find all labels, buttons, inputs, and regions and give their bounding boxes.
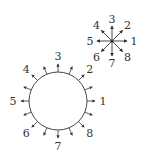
- normal-arrow: [44, 128, 47, 135]
- normal-arrow: [32, 122, 38, 128]
- star-label: 7: [109, 57, 116, 70]
- circle-label: 6: [23, 127, 30, 140]
- circle-label: 8: [86, 127, 93, 140]
- normal-arrow: [69, 128, 72, 135]
- star-arrow: [101, 30, 112, 41]
- normal-arrow: [69, 67, 72, 74]
- circle-outline: [29, 72, 87, 130]
- star-center-dot: [110, 39, 113, 42]
- circle-label: 2: [86, 63, 93, 76]
- star-arrow: [112, 41, 123, 52]
- circle-label: 3: [55, 50, 62, 63]
- normal-arrow: [32, 75, 38, 81]
- normal-arrow: [24, 87, 31, 90]
- circle-label: 7: [55, 140, 62, 153]
- star-label: 1: [131, 35, 138, 48]
- normal-arrow: [24, 112, 31, 115]
- normal-arrow: [79, 122, 85, 128]
- star-label: 8: [124, 51, 131, 64]
- star-arrow: [112, 30, 123, 41]
- star-label: 6: [93, 51, 100, 64]
- circle-label: 1: [100, 95, 107, 108]
- normal-arrow: [85, 87, 92, 90]
- circle-label: 5: [10, 95, 17, 108]
- star-label: 4: [93, 19, 100, 32]
- circle-with-normal-arrows: 12345678: [10, 50, 107, 153]
- star-of-arrows: 12345678: [87, 13, 138, 70]
- radial-arrows-diagram: 12345678 12345678: [0, 0, 143, 156]
- star-label: 2: [124, 19, 131, 32]
- star-label: 5: [87, 35, 94, 48]
- star-label: 3: [109, 13, 116, 26]
- normal-arrow: [79, 75, 85, 81]
- circle-label: 4: [23, 63, 30, 76]
- normal-arrow: [85, 112, 92, 115]
- star-arrow: [101, 41, 112, 52]
- normal-arrow: [44, 67, 47, 74]
